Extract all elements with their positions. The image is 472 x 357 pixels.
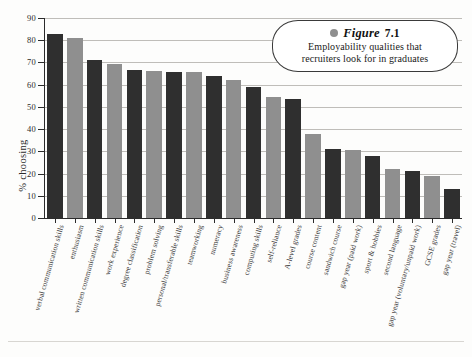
x-axis-labels: verbal communication skillsenthusiasmwri…	[45, 224, 462, 357]
caption-title-row: Figure 7.1	[281, 25, 449, 41]
y-tick-mark	[38, 151, 44, 152]
bar	[266, 97, 281, 218]
x-tick-mark	[95, 219, 96, 223]
bar	[107, 64, 122, 218]
x-tick-mark	[134, 219, 135, 223]
y-tick-label: 40	[0, 124, 36, 134]
bar	[127, 70, 142, 218]
y-tick-mark	[38, 196, 44, 197]
x-tick-mark	[373, 219, 374, 223]
bar	[186, 72, 201, 218]
x-tick-mark	[254, 219, 255, 223]
x-axis-label: sport & hobbies	[362, 224, 383, 274]
bar	[166, 72, 181, 218]
x-tick-mark	[75, 219, 76, 223]
x-axis-label: work experience	[103, 224, 125, 276]
y-tick-mark	[38, 129, 44, 130]
x-axis-label: gap year (paid work)	[338, 224, 364, 289]
y-tick-mark	[38, 62, 44, 63]
x-tick-mark	[333, 219, 334, 223]
x-tick-mark	[393, 219, 394, 223]
caption-line-1: Employability qualities that	[281, 41, 449, 53]
x-axis-label: course content	[304, 224, 324, 270]
bar	[67, 38, 82, 218]
x-tick-mark	[234, 219, 235, 223]
x-tick-mark	[55, 219, 56, 223]
x-axis-label: gap year (travel)	[441, 224, 463, 276]
x-tick-mark	[174, 219, 175, 223]
bar	[226, 80, 241, 218]
y-tick-label: 90	[0, 13, 36, 23]
x-axis-label: teamworking	[186, 224, 205, 266]
caption-line-2: recruiters look for in graduates	[281, 53, 449, 65]
bar	[206, 76, 221, 218]
y-tick-label: 50	[0, 102, 36, 112]
y-tick-label: 70	[0, 57, 36, 67]
bar	[365, 156, 380, 218]
y-tick-label: 80	[0, 35, 36, 45]
y-axis-ticks: 0102030405060708090	[0, 0, 36, 357]
bar	[146, 71, 161, 218]
x-axis-label: enthusiasm	[68, 224, 85, 260]
x-axis-label: computing skills	[242, 224, 264, 276]
y-tick-mark	[38, 18, 44, 19]
x-axis-label: GCSE grades	[424, 224, 443, 267]
y-tick-mark	[38, 107, 44, 108]
bar	[246, 87, 261, 218]
figure-caption-callout: Figure 7.1 Employability qualities that …	[272, 20, 458, 72]
bar	[345, 150, 360, 218]
x-tick-mark	[194, 219, 195, 223]
y-tick-label: 0	[0, 213, 36, 223]
bar	[325, 149, 340, 218]
x-tick-mark	[154, 219, 155, 223]
figure-container: % choosing 0102030405060708090 verbal co…	[0, 0, 472, 357]
y-tick-mark	[38, 174, 44, 175]
caption-figure-label: Figure	[343, 26, 380, 41]
x-tick-mark	[313, 219, 314, 223]
y-tick-mark	[38, 85, 44, 86]
x-tick-mark	[115, 219, 116, 223]
x-tick-mark	[452, 219, 453, 223]
bar	[385, 169, 400, 218]
bar	[405, 171, 420, 218]
x-axis-label: self-reliance	[266, 224, 284, 264]
x-axis-label: second language	[381, 224, 403, 276]
y-tick-label: 60	[0, 80, 36, 90]
x-tick-mark	[293, 219, 294, 223]
bar	[47, 34, 62, 218]
x-tick-mark	[273, 219, 274, 223]
x-axis-label: sandwich course	[322, 224, 344, 276]
x-axis-label: A-level grades	[284, 224, 304, 270]
x-axis-label: problem solving	[143, 224, 165, 275]
bar	[444, 189, 459, 218]
x-tick-mark	[432, 219, 433, 223]
bar	[424, 176, 439, 218]
x-tick-mark	[412, 219, 413, 223]
y-tick-mark	[38, 218, 44, 219]
x-axis-label: numeracy	[208, 224, 224, 256]
x-axis-label: verbal communication skills	[33, 224, 65, 312]
bar	[285, 99, 300, 218]
bar	[305, 134, 320, 218]
caption-figure-number: 7.1	[385, 27, 400, 39]
x-axis-label: business awareness	[220, 224, 244, 284]
x-tick-mark	[353, 219, 354, 223]
y-tick-mark	[38, 40, 44, 41]
y-tick-label: 20	[0, 169, 36, 179]
y-tick-label: 30	[0, 146, 36, 156]
bar	[87, 60, 102, 218]
x-tick-mark	[214, 219, 215, 223]
circle-bullet-icon	[330, 29, 338, 37]
y-tick-label: 10	[0, 191, 36, 201]
